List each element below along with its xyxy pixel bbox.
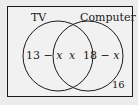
computer-only-region: 18 − x	[83, 49, 120, 62]
tv-only-region: 13 − x	[26, 49, 63, 62]
venn-diagram: TV Computer 13 − x x 18 − x 16	[0, 0, 138, 105]
intersection-region: x	[69, 49, 76, 62]
tv-label: TV	[31, 11, 47, 24]
outside-region: 16	[112, 79, 125, 90]
computer-label: Computer	[80, 11, 137, 24]
